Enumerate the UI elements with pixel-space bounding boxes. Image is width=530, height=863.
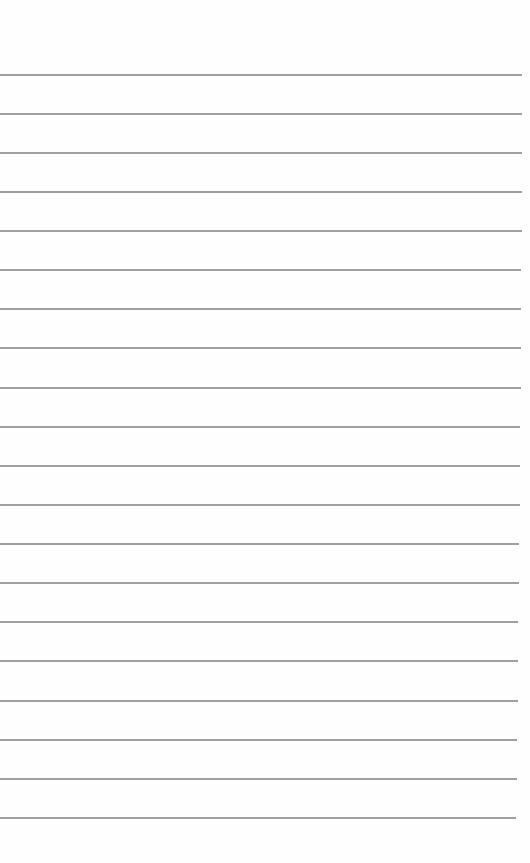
ruled-line: [0, 387, 521, 389]
ruled-line: [0, 504, 520, 506]
ruled-line: [0, 152, 522, 154]
ruled-line: [0, 778, 517, 780]
ruled-line: [0, 582, 519, 584]
ruled-line: [0, 113, 522, 115]
lined-paper: [0, 0, 530, 863]
ruled-line: [0, 543, 519, 545]
ruled-line: [0, 700, 518, 702]
ruled-line: [0, 269, 521, 271]
ruled-line: [0, 817, 516, 819]
ruled-line: [0, 308, 521, 310]
ruled-line: [0, 426, 520, 428]
ruled-line: [0, 74, 522, 76]
ruled-line: [0, 660, 518, 662]
ruled-line: [0, 347, 521, 349]
ruled-line: [0, 739, 517, 741]
ruled-line: [0, 191, 522, 193]
ruled-line: [0, 465, 520, 467]
ruled-line: [0, 621, 518, 623]
ruled-line: [0, 230, 522, 232]
